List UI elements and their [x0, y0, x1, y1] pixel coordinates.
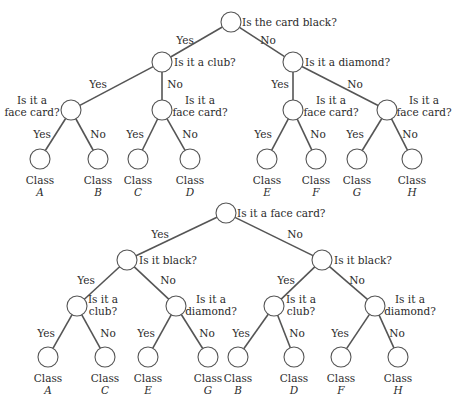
edge-label-no: No — [389, 327, 405, 339]
class-label: Class — [134, 372, 162, 384]
leaf-node — [257, 149, 277, 169]
tree-edge — [53, 315, 72, 349]
class-letter: D — [185, 186, 195, 198]
edge-label-no: No — [349, 274, 365, 286]
class-letter: A — [35, 186, 44, 198]
class-letter: C — [134, 186, 142, 198]
class-letter: F — [336, 384, 345, 396]
leaf-node — [228, 347, 248, 367]
leaf-node — [180, 149, 200, 169]
node-question: Is it black? — [334, 254, 392, 266]
decision-node — [221, 12, 241, 32]
edge-label-yes: Yes — [345, 128, 364, 140]
edge-label-yes: Yes — [330, 327, 349, 339]
edge-label-yes: Yes — [76, 274, 95, 286]
node-question: face card? — [4, 106, 59, 118]
tree-edge — [82, 315, 100, 348]
leaf-node — [138, 347, 158, 367]
edge-label-yes: Yes — [150, 228, 169, 240]
class-label: Class — [176, 174, 204, 186]
tree-face-first: YesNoYesNoYesNoYesClassANoClassCYesClass… — [34, 203, 436, 396]
leaf-node — [284, 347, 304, 367]
leaf-node — [198, 347, 218, 367]
leaf-node — [88, 149, 108, 169]
leaf-node — [128, 149, 148, 169]
leaf-node — [306, 149, 326, 169]
class-letter: H — [392, 384, 403, 396]
leaf-node — [388, 347, 408, 367]
node-question: Is it a — [316, 94, 346, 106]
decision-node — [377, 100, 397, 120]
class-letter: G — [204, 384, 212, 396]
node-question: club? — [89, 305, 118, 317]
class-letter: C — [101, 384, 109, 396]
decision-node — [312, 250, 332, 270]
node-question: Is it a — [196, 293, 226, 305]
edge-label-yes: Yes — [32, 128, 51, 140]
node-question: face card? — [303, 106, 358, 118]
node-question: Is it a — [88, 293, 118, 305]
decision-node — [365, 296, 385, 316]
decision-node — [117, 250, 137, 270]
leaf-node — [331, 347, 351, 367]
edge-label-no: No — [310, 128, 326, 140]
tree-edge — [347, 314, 370, 348]
decision-tree-diagram: YesNoYesNoYesNoYesClassANoClassBYesClass… — [0, 0, 452, 401]
node-question: face card? — [172, 106, 227, 118]
class-label: Class — [26, 174, 54, 186]
tree-edge — [136, 217, 217, 255]
edge-label-no: No — [167, 78, 183, 90]
node-question: Is it a — [286, 293, 316, 305]
class-label: Class — [124, 174, 152, 186]
leaf-node — [30, 149, 50, 169]
class-label: Class — [84, 174, 112, 186]
leaf-node — [38, 347, 58, 367]
class-label: Class — [224, 372, 252, 384]
edge-label-yes: Yes — [36, 327, 55, 339]
tree-edge — [362, 119, 382, 151]
tree-edge — [272, 119, 289, 150]
node-question: Is it black? — [139, 254, 197, 266]
node-question: Is the card black? — [242, 16, 337, 28]
edge-label-yes: Yes — [175, 34, 194, 46]
class-label: Class — [194, 372, 222, 384]
edge-label-yes: Yes — [253, 128, 272, 140]
edge-label-no: No — [347, 78, 363, 90]
decision-node — [283, 100, 303, 120]
class-label: Class — [384, 372, 412, 384]
decision-node — [166, 296, 186, 316]
node-question: Is it a club? — [174, 56, 236, 68]
decision-node — [216, 203, 236, 223]
node-question: Is it a — [409, 94, 439, 106]
edge-label-yes: Yes — [125, 128, 144, 140]
class-letter: B — [93, 186, 102, 198]
class-letter: E — [262, 186, 271, 198]
leaf-node — [95, 347, 115, 367]
node-question: diamond? — [185, 305, 237, 317]
leaf-node — [347, 149, 367, 169]
decision-node — [264, 296, 284, 316]
node-question: Is it a face card? — [237, 207, 326, 219]
edge-label-no: No — [402, 128, 418, 140]
edge-label-no: No — [100, 327, 116, 339]
class-letter: G — [353, 186, 361, 198]
edge-label-yes: Yes — [270, 78, 289, 90]
edge-label-no: No — [260, 34, 276, 46]
class-letter: E — [143, 384, 152, 396]
leaf-node — [402, 149, 422, 169]
edge-label-no: No — [287, 228, 303, 240]
decision-node — [61, 100, 81, 120]
node-question: Is it a — [17, 94, 47, 106]
class-label: Class — [398, 174, 426, 186]
node-question: Is it a diamond? — [305, 56, 390, 68]
class-letter: D — [289, 384, 299, 396]
class-label: Class — [327, 372, 355, 384]
node-question: Is it a — [395, 293, 425, 305]
class-label: Class — [34, 372, 62, 384]
decision-node — [283, 52, 303, 72]
edge-label-no: No — [160, 274, 176, 286]
edge-label-yes: Yes — [136, 327, 155, 339]
edge-label-yes: Yes — [88, 78, 107, 90]
node-question: face card? — [396, 106, 451, 118]
edge-label-yes: Yes — [231, 327, 250, 339]
